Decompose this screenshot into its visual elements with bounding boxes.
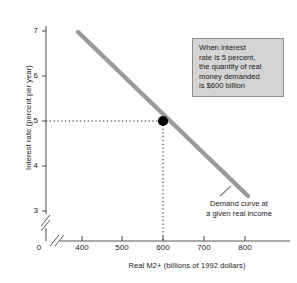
x-axis-title: Real M2+ (billions of 1992 dollars): [82, 261, 292, 270]
demand-curve-label: Demand curve at a given real income: [186, 199, 292, 219]
x-tick-label-600: 600: [148, 243, 178, 252]
origin-label: 0: [33, 243, 45, 252]
equilibrium-point-marker: [158, 116, 168, 126]
x-tick-label-400: 400: [67, 243, 97, 252]
y-tick-label-7: 7: [22, 26, 38, 35]
annotation-leader-line: [220, 186, 231, 196]
y-tick-label-3: 3: [22, 206, 38, 215]
callout-box: When interest rate is 5 percent, the qua…: [192, 38, 284, 97]
callout-text: When interest rate is 5 percent, the qua…: [199, 43, 278, 91]
x-axis-ticks: [82, 236, 245, 241]
y-axis-ticks: [42, 31, 46, 211]
money-demand-chart: 7 6 5 4 3 0 400 500 600 700 800 Interest…: [0, 0, 297, 283]
x-tick-label-800: 800: [230, 243, 260, 252]
x-tick-label-500: 500: [107, 243, 137, 252]
x-tick-label-700: 700: [189, 243, 219, 252]
y-axis-title: Interest rate (percent per year): [24, 38, 33, 198]
